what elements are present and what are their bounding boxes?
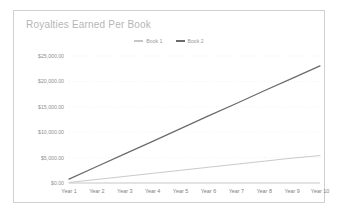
x-tick-label: Year 5 [173, 188, 188, 194]
x-tick-label: Year 3 [117, 188, 132, 194]
series-line-book-1 [69, 156, 320, 183]
chart-card: Royalties Earned Per Book Book 1 Book 2 … [13, 10, 325, 203]
plot-area: $0.00$5,000.00$10,000.00$15,000.00$20,00… [14, 11, 324, 202]
y-tick-label: $10,000.00 [16, 129, 64, 135]
x-tick-label: Year 4 [145, 188, 160, 194]
y-tick-label: $25,000.00 [16, 53, 64, 59]
x-tick-label: Year 2 [89, 188, 104, 194]
x-tick-label: Year 8 [257, 188, 272, 194]
y-tick-label: $0.00 [16, 180, 64, 186]
x-tick-label: Year 6 [201, 188, 216, 194]
x-tick-label: Year 7 [229, 188, 244, 194]
series-line-book-2 [69, 66, 320, 179]
y-tick-label: $5,000.00 [16, 155, 64, 161]
x-tick-label: Year 9 [284, 188, 299, 194]
x-tick-label: Year 10 [311, 188, 329, 194]
y-tick-label: $20,000.00 [16, 78, 64, 84]
x-tick-label: Year 1 [61, 188, 76, 194]
y-tick-label: $15,000.00 [16, 104, 64, 110]
